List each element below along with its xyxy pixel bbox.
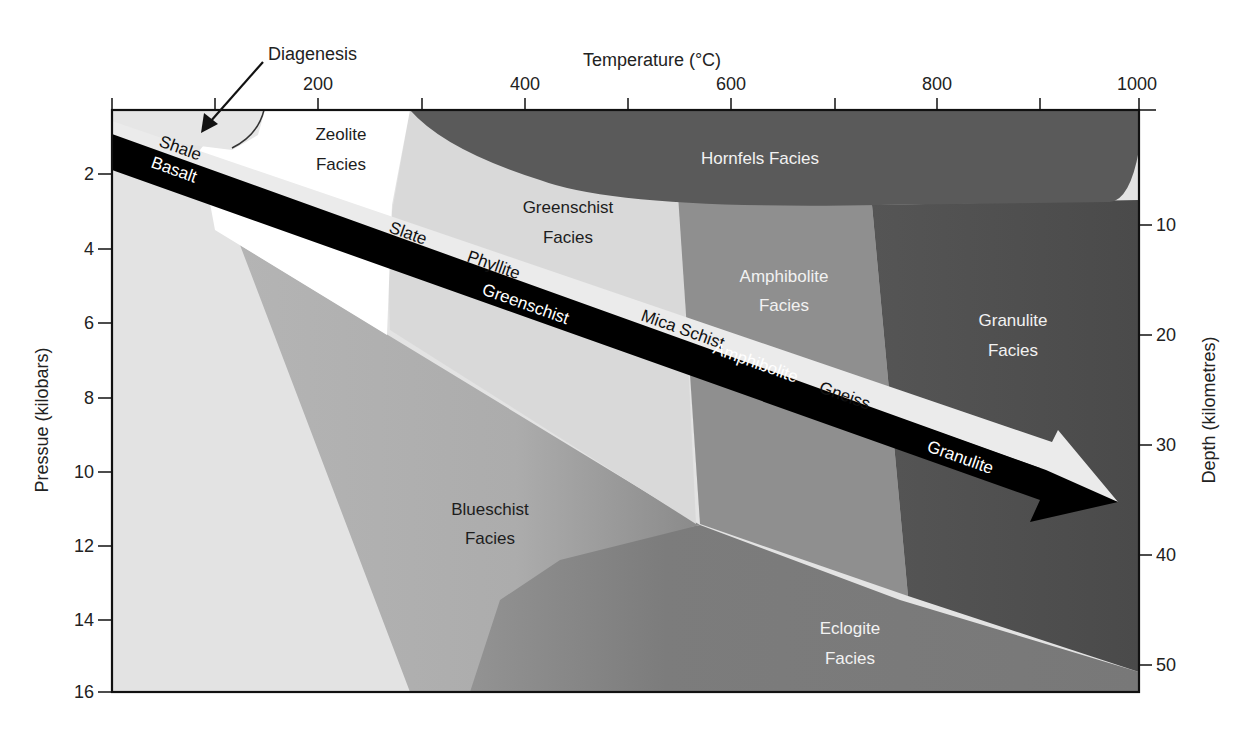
- granulite-facies-label: Granulite: [979, 311, 1048, 330]
- pressure-tick-8: 8: [84, 388, 94, 408]
- temp-tick-1000: 1000: [1117, 74, 1157, 94]
- facies-regions: [112, 110, 1139, 692]
- depth-tick-50: 50: [1156, 655, 1176, 675]
- pressure-tick-2: 2: [84, 164, 94, 184]
- pressure-tick-16: 16: [74, 682, 94, 702]
- blueschist-facies-label-line2: Facies: [465, 529, 515, 548]
- eclogite-facies-label-line2: Facies: [825, 649, 875, 668]
- pressure-tick-4: 4: [84, 239, 94, 259]
- temperature-axis: [112, 98, 1156, 110]
- zeolite-facies-label: Zeolite: [315, 125, 366, 144]
- greenschist-facies-label: Greenschist: [523, 198, 614, 217]
- depth-tick-20: 20: [1156, 325, 1176, 345]
- zeolite-facies-label-line2: Facies: [316, 155, 366, 174]
- depth-tick-30: 30: [1156, 435, 1176, 455]
- temp-tick-800: 800: [922, 74, 952, 94]
- blueschist-facies-label: Blueschist: [451, 500, 529, 519]
- pressure-tick-14: 14: [74, 610, 94, 630]
- hornfels-facies-label: Hornfels Facies: [701, 149, 819, 168]
- depth-tick-40: 40: [1156, 545, 1176, 565]
- temp-tick-400: 400: [510, 74, 540, 94]
- temp-tick-600: 600: [716, 74, 746, 94]
- granulite-facies-label-line2: Facies: [988, 341, 1038, 360]
- pressure-axis: [98, 174, 112, 692]
- pressure-axis-title: Pressue (kilobars): [32, 347, 52, 492]
- diagenesis-label: Diagenesis: [268, 44, 357, 64]
- temp-tick-200: 200: [303, 74, 333, 94]
- pressure-tick-6: 6: [84, 313, 94, 333]
- depth-tick-10: 10: [1156, 215, 1176, 235]
- amphibolite-facies-label: Amphibolite: [740, 267, 829, 286]
- eclogite-facies-label: Eclogite: [820, 619, 880, 638]
- metamorphic-facies-diagram: Diagenesis 200 400 600 800 1000 Temperat…: [0, 0, 1258, 738]
- amphibolite-facies-label-line2: Facies: [759, 296, 809, 315]
- depth-axis: [1139, 225, 1152, 665]
- depth-axis-title: Depth (kilometres): [1199, 336, 1219, 483]
- greenschist-facies-label-line2: Facies: [543, 228, 593, 247]
- pressure-tick-12: 12: [74, 536, 94, 556]
- pressure-tick-10: 10: [74, 462, 94, 482]
- temperature-axis-title: Temperature (°C): [583, 50, 721, 70]
